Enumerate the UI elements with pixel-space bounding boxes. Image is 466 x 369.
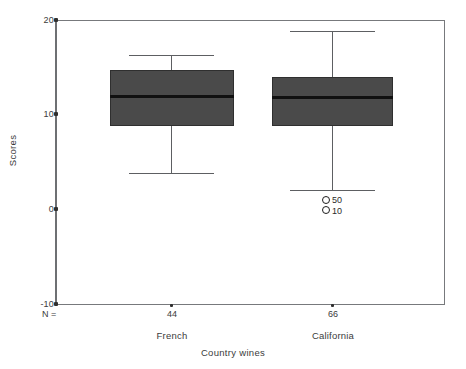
y-tick-mark-20 [54, 18, 58, 22]
california-outlier-label-50: 50 [332, 196, 342, 205]
y-tick-mark-minus-10 [54, 302, 58, 306]
california-lower-whisker-cap [290, 190, 375, 191]
y-tick-label-20: 20 [20, 15, 54, 25]
y-tick-label-10: 10 [20, 109, 54, 119]
y-axis-title: Scores [7, 121, 18, 181]
california-outlier-label-10: 10 [332, 207, 342, 216]
x-axis-title: Country wines [0, 347, 466, 358]
x-category-french: French [127, 330, 217, 341]
california-median-line [272, 96, 393, 99]
french-lower-whisker-stem [171, 126, 172, 173]
y-tick-label-0: 0 [20, 204, 54, 214]
x-category-california: California [288, 330, 378, 341]
x-tick-mark-california [331, 304, 334, 307]
california-box [272, 77, 393, 126]
california-upper-whisker-stem [332, 31, 333, 77]
boxplot-figure: 20 10 0 -10 Scores 50 10 N = 44 66 Frenc… [0, 0, 466, 369]
y-axis-line [55, 20, 57, 306]
y-tick-label-minus-10: -10 [20, 299, 54, 309]
french-lower-whisker-cap [129, 173, 214, 174]
y-tick-mark-0 [54, 207, 58, 211]
n-equals-label: N = [42, 309, 56, 320]
plot-area-frame [56, 20, 445, 305]
california-outlier-marker-50 [322, 196, 330, 204]
x-count-french: 44 [142, 309, 202, 320]
french-median-line [110, 95, 234, 98]
y-tick-mark-10 [54, 112, 58, 116]
california-lower-whisker-stem [332, 126, 333, 190]
x-tick-mark-french [170, 304, 173, 307]
french-upper-whisker-stem [171, 55, 172, 70]
x-count-california: 66 [303, 309, 363, 320]
california-outlier-marker-10 [322, 206, 330, 214]
french-box [110, 70, 234, 126]
